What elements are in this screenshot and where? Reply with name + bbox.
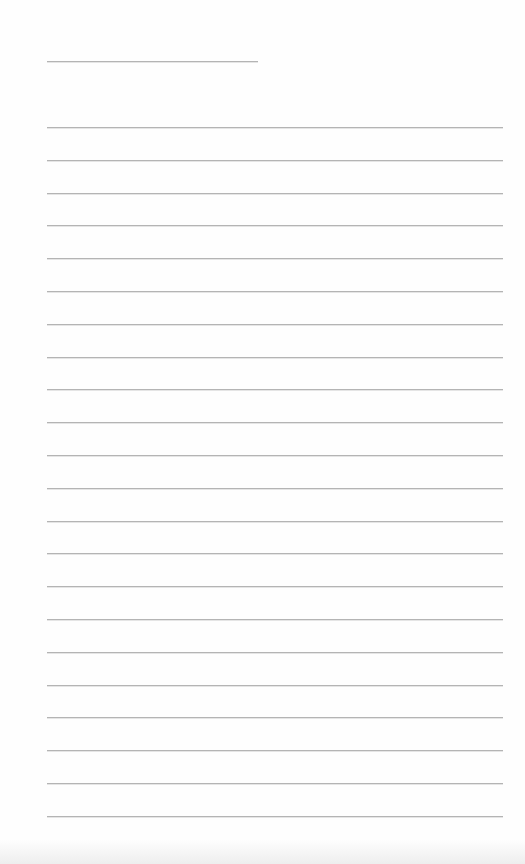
ruled-line	[47, 553, 503, 554]
ruled-line	[47, 488, 503, 489]
ruled-line	[47, 422, 503, 423]
ruled-line	[47, 127, 503, 128]
ruled-line	[47, 324, 503, 325]
notepaper-page	[0, 0, 525, 864]
ruled-line	[47, 258, 503, 259]
title-line	[47, 61, 258, 62]
ruled-line	[47, 455, 503, 456]
ruled-line	[47, 193, 503, 194]
ruled-line	[47, 225, 503, 226]
ruled-line	[47, 816, 503, 817]
ruled-line	[47, 521, 503, 522]
ruled-line	[47, 586, 503, 587]
ruled-line	[47, 389, 503, 390]
ruled-line	[47, 291, 503, 292]
ruled-line	[47, 160, 503, 161]
ruled-line	[47, 357, 503, 358]
ruled-line	[47, 750, 503, 751]
ruled-line	[47, 717, 503, 718]
ruled-line	[47, 652, 503, 653]
ruled-line	[47, 619, 503, 620]
ruled-line	[47, 783, 503, 784]
ruled-line	[47, 685, 503, 686]
